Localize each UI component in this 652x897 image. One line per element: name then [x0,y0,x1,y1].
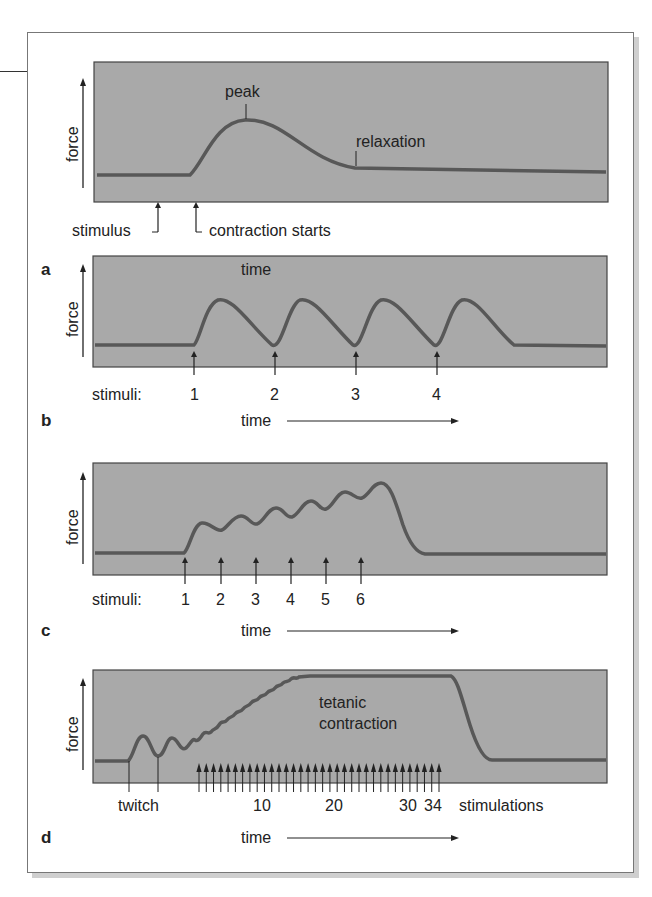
relaxation-label: relaxation [356,134,425,150]
y-axis-label: force [65,509,81,545]
y-axis-label: force [65,716,81,752]
tick-label: 30 [399,798,417,814]
y-axis-label: force [65,301,81,337]
contraction-starts-label: contraction starts [209,223,331,239]
stimuli-label: stimuli: [92,592,142,608]
x-axis-label: time [241,413,271,429]
twitch-label: twitch [118,798,159,814]
panel-letter-c: c [41,622,50,639]
tetanic-label: tetanic [319,695,366,711]
tick-label: 34 [424,798,442,814]
figure-graphics [0,0,652,897]
stimuli-label: stimuli: [92,387,142,403]
tick-label: 10 [253,798,271,814]
stimulus-number: 3 [351,387,360,403]
panel-b [83,256,607,421]
stimulus-number: 6 [356,592,365,608]
x-axis-label: time [241,623,271,639]
panel-letter-b: b [41,412,51,429]
stimulus-label: stimulus [72,223,131,239]
y-axis-label: force [65,126,81,162]
panel-letter-a: a [41,261,50,278]
graph-a-area [94,62,608,202]
peak-label: peak [225,84,260,100]
stimulus-number: 2 [216,592,225,608]
stimulus-number: 1 [181,592,190,608]
graph-b-area [93,256,607,367]
stimulus-number: 4 [432,387,441,403]
stimulus-number: 4 [286,592,295,608]
x-axis-label: time [241,262,271,278]
stimulus-number: 3 [251,592,260,608]
panel-c [83,463,607,631]
tick-label: 20 [325,798,343,814]
x-axis-label: time [241,830,271,846]
panel-a [83,62,608,270]
contraction-label: contraction [319,716,397,732]
panel-letter-d: d [41,829,51,846]
stimulus-number: 5 [321,592,330,608]
graph-c-area [93,463,607,575]
stimulus-number: 2 [270,387,279,403]
stimulations-label: stimulations [459,798,543,814]
stimulus-number: 1 [190,387,199,403]
